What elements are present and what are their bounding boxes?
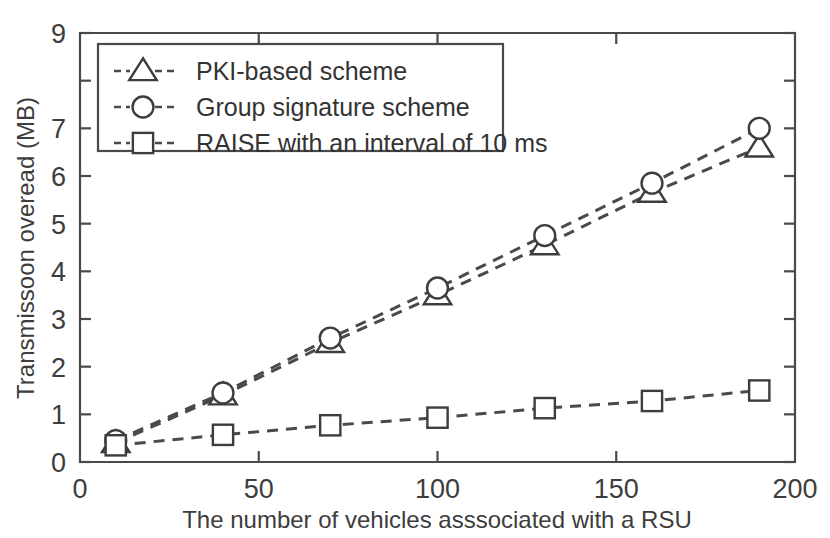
x-tick-label: 50 <box>244 474 274 504</box>
x-tick-label: 150 <box>594 474 639 504</box>
data-point-marker <box>213 425 233 445</box>
chart-svg: 012345679 050100150200 PKI-based schemeG… <box>0 0 830 538</box>
y-axis-title: Transmissoon overead (MB) <box>12 97 39 399</box>
data-point-marker <box>427 278 448 299</box>
x-axis-title: The number of vehicles asssociated with … <box>182 506 692 533</box>
data-point-marker <box>642 391 662 411</box>
y-tick-label: 2 <box>51 353 66 383</box>
y-tick-label: 5 <box>51 210 66 240</box>
data-point-marker <box>749 118 770 139</box>
data-point-marker <box>320 328 341 349</box>
data-point-marker <box>535 398 555 418</box>
y-tick-label: 6 <box>51 162 66 192</box>
x-tick-label: 200 <box>772 474 817 504</box>
data-point-marker <box>213 382 234 403</box>
data-point-marker <box>427 408 447 428</box>
y-tick-label: 1 <box>51 400 66 430</box>
x-tick-label: 100 <box>415 474 460 504</box>
legend-label: RAISE with an interval of 10 ms <box>196 129 548 157</box>
data-point-marker <box>534 225 555 246</box>
legend: PKI-based schemeGroup signature schemeRA… <box>98 44 548 157</box>
data-point-marker <box>749 380 769 400</box>
legend-label: Group signature scheme <box>196 93 470 121</box>
legend-label: PKI-based scheme <box>196 57 407 85</box>
legend-marker-circle <box>133 97 154 118</box>
data-point-marker <box>106 435 126 455</box>
y-tick-label: 0 <box>51 448 66 478</box>
data-point-marker <box>320 415 340 435</box>
y-tick-label: 7 <box>51 114 66 144</box>
x-tick-label: 0 <box>72 474 87 504</box>
data-point-marker <box>642 173 663 194</box>
y-tick-label: 4 <box>51 257 66 287</box>
y-tick-label: 9 <box>51 19 66 49</box>
legend-marker-square <box>133 133 153 153</box>
y-tick-label: 3 <box>51 305 66 335</box>
chart-figure: 012345679 050100150200 PKI-based schemeG… <box>0 0 830 538</box>
